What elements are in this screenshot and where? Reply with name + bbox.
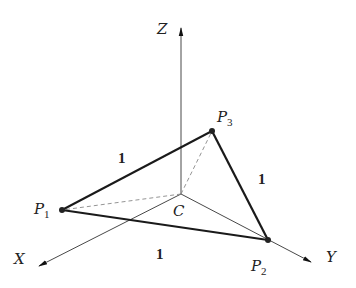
point-p1 <box>59 207 65 213</box>
x-axis-label: X <box>13 250 26 268</box>
p3-label: P3 <box>216 108 233 128</box>
y-axis <box>181 194 311 262</box>
edge-length-p1-p2: 1 <box>156 246 164 262</box>
edge-length-p3-p2: 1 <box>258 171 266 187</box>
z-axis-label: Z <box>156 20 168 38</box>
point-p3 <box>209 128 215 134</box>
edge-p1-p2 <box>62 210 268 240</box>
point-p2 <box>265 237 271 243</box>
p2-label: P2 <box>250 257 267 277</box>
y-axis-label: Y <box>326 248 338 266</box>
edge-length-p1-p3: 1 <box>118 150 126 166</box>
dashed-edge-c-p1 <box>62 194 181 210</box>
origin-label: C <box>173 202 185 220</box>
p1-label: P1 <box>33 200 50 220</box>
triangle-3d-diagram: Z X Y C P1 P2 P3 1 1 1 <box>0 0 356 288</box>
dashed-edge-c-p3 <box>181 131 212 194</box>
